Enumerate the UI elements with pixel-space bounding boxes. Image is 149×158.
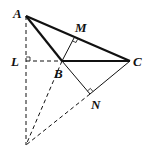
segment-CN [90,61,130,94]
segment-BM [62,38,74,61]
label-B: B [53,66,63,81]
label-N: N [90,97,101,112]
label-M: M [74,20,87,35]
right-angle-N-icon [87,88,93,91]
geometry-diagram: A L B C M N [0,0,149,158]
label-A: A [12,6,22,21]
segment-BN [62,61,90,94]
segment-NP [26,94,90,145]
right-angle-L-icon [26,57,30,61]
label-C: C [133,54,142,69]
label-L: L [10,54,19,69]
